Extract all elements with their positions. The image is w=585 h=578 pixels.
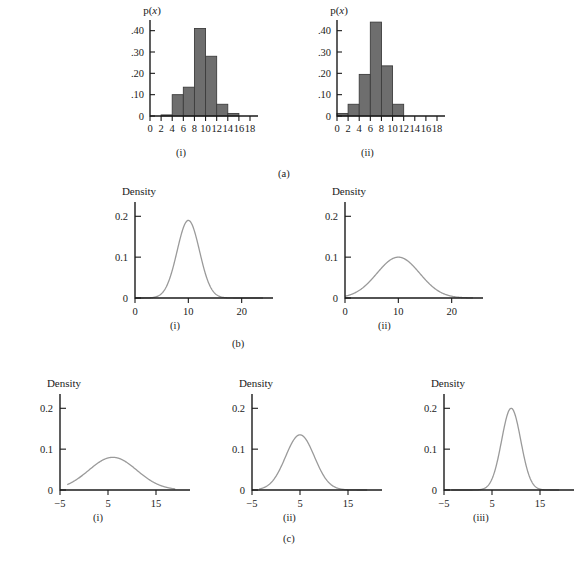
y-axis-title: Density [47,377,82,389]
y-tick-label: .20 [318,68,331,79]
y-tick-label: 0 [333,293,338,304]
x-tick-label: 10 [183,306,194,317]
y-tick-label: .20 [131,68,144,79]
density-curve [345,257,473,298]
density-curve [135,220,263,298]
density-c-ii: 00.10.2−5515Density [212,382,382,512]
histogram-bar [359,74,370,116]
x-tick-label: 18 [432,123,443,134]
y-tick-label: 0.2 [424,403,437,414]
y-tick-label: .10 [318,89,331,100]
histogram-a-ii-canvas: 0.10.20.30.40024681012141618p(x) [305,4,445,144]
x-tick-label: 20 [236,306,247,317]
x-tick-label: 16 [421,123,432,134]
x-tick-label: 5 [489,498,494,509]
x-tick-label: 15 [151,498,162,509]
x-tick-label: −5 [438,498,449,509]
y-tick-label: 0 [240,485,245,496]
row-caption-c: (c) [283,533,295,544]
x-tick-label: 0 [334,123,339,134]
density-c-i: 00.10.2−5515Density [20,382,190,512]
x-tick-label: 14 [223,123,234,134]
y-tick-label: 0.1 [40,444,53,455]
y-tick-label: 0 [326,111,331,122]
y-tick-label: 0.2 [325,211,338,222]
density-b-i: 00.10.201020Density [95,190,275,320]
x-tick-label: 20 [446,306,457,317]
density-b-ii: 00.10.201020Density [305,190,485,320]
x-tick-label: 0 [132,306,137,317]
y-tick-label: 0.1 [232,444,245,455]
y-axis-title: Density [239,377,274,389]
panel-caption-c-ii: (ii) [283,512,296,523]
density-curve [259,435,367,490]
y-tick-label: 0.2 [232,403,245,414]
histogram-bar [194,29,205,116]
density-curve [451,408,559,490]
y-tick-label: .40 [131,25,144,36]
x-tick-label: 8 [379,123,384,134]
x-tick-label: 10 [387,123,398,134]
histogram-bar [348,104,359,116]
y-tick-label: 0.1 [115,252,128,263]
x-tick-label: 5 [297,498,302,509]
x-tick-label: 12 [211,123,222,134]
x-tick-label: 2 [345,123,350,134]
panel-caption-b-ii: (ii) [378,320,391,331]
histogram-bar [172,95,183,116]
histogram-bar [183,87,194,116]
density-curve [67,457,175,489]
x-tick-label: 6 [181,123,186,134]
x-tick-label: 15 [343,498,354,509]
x-tick-label: 6 [368,123,373,134]
x-tick-label: −5 [54,498,65,509]
x-tick-label: −5 [246,498,257,509]
panel-caption-c-iii: (iii) [473,512,489,523]
x-tick-label: 16 [234,123,245,134]
histogram-a-ii: 0.10.20.30.40024681012141618p(x) [305,4,445,144]
row-caption-b: (b) [232,338,244,349]
histogram-bar [393,104,404,116]
histogram-a-i-canvas: 0.10.20.30.40024681012141618p(x) [118,4,258,144]
y-tick-label: 0.2 [40,403,53,414]
x-tick-label: 5 [105,498,110,509]
density-b-ii-canvas: 00.10.201020Density [305,190,485,320]
x-tick-label: 10 [393,306,404,317]
x-tick-label: 4 [357,123,363,134]
y-tick-label: .10 [131,89,144,100]
x-tick-label: 0 [147,123,152,134]
y-axis-title: p(x) [143,4,161,17]
y-tick-label: 0 [48,485,53,496]
x-tick-label: 4 [170,123,176,134]
histogram-bar [381,66,392,116]
y-tick-label: .40 [318,25,331,36]
density-c-iii-canvas: 00.10.2−5515Density [404,382,574,512]
y-tick-label: 0.1 [325,252,338,263]
density-c-iii: 00.10.2−5515Density [404,382,574,512]
panel-caption-b-i: (i) [170,320,180,331]
x-tick-label: 8 [192,123,197,134]
x-tick-label: 15 [535,498,546,509]
y-axis-title: Density [332,185,367,197]
density-b-i-canvas: 00.10.201020Density [95,190,275,320]
histogram-bar [370,22,381,116]
x-tick-label: 18 [245,123,256,134]
y-tick-label: 0.1 [424,444,437,455]
panel-caption-a-i: (i) [176,147,186,158]
panel-caption-a-ii: (ii) [361,147,374,158]
x-tick-label: 10 [200,123,211,134]
x-tick-label: 2 [158,123,163,134]
histogram-bar [217,104,228,116]
y-tick-label: 0 [139,111,144,122]
row-caption-a: (a) [278,168,290,179]
panel-caption-c-i: (i) [93,512,103,523]
x-tick-label: 12 [398,123,409,134]
y-tick-label: 0 [123,293,128,304]
y-axis-title: p(x) [330,4,348,17]
y-axis-title: Density [431,377,466,389]
x-tick-label: 0 [342,306,347,317]
y-tick-label: .30 [318,47,331,58]
x-tick-label: 14 [410,123,421,134]
y-tick-label: .30 [131,47,144,58]
y-axis-title: Density [122,185,157,197]
